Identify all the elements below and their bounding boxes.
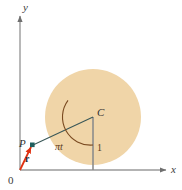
cycloid-figure: y x 0 C P πt 1 r — [0, 0, 182, 190]
figure-canvas: y x 0 C P πt 1 r — [0, 0, 182, 190]
vector-label-r: r — [25, 153, 30, 164]
origin-label: 0 — [8, 174, 14, 186]
center-label-c: C — [97, 106, 105, 118]
point-p-marker — [30, 143, 35, 148]
angle-label: πt — [55, 141, 63, 152]
y-axis-label: y — [22, 1, 28, 13]
x-axis-label: x — [170, 163, 176, 175]
point-label-p: P — [18, 137, 26, 149]
unit-length-label: 1 — [97, 142, 102, 153]
